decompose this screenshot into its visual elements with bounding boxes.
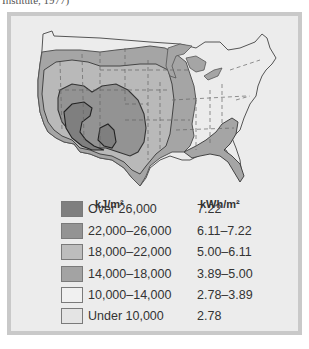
- legend-value: 2.78: [197, 309, 221, 323]
- legend-label: Under 10,000: [88, 309, 164, 323]
- legend-value: 5.00–6.11: [197, 245, 252, 259]
- legend-label: 10,000–14,000: [88, 288, 171, 302]
- legend-row: 22,000–26,000 6.11–7.22: [61, 223, 261, 240]
- legend-swatch: [61, 244, 83, 260]
- legend-swatch: [61, 201, 83, 217]
- legend-swatch: [61, 308, 83, 324]
- legend-row: Over 26,000 7.22: [61, 201, 261, 218]
- legend-row: 10,000–14,000 2.78–3.89: [61, 287, 261, 304]
- legend-label: 14,000–18,000: [88, 267, 171, 281]
- legend-value: 7.22: [197, 202, 221, 216]
- legend-row: 18,000–22,000 5.00–6.11: [61, 244, 261, 261]
- legend-swatch: [61, 287, 83, 303]
- legend-row: Under 10,000 2.78: [61, 308, 261, 325]
- legend-value: 2.78–3.89: [197, 288, 253, 302]
- legend-swatch: [61, 266, 83, 282]
- legend-value: 3.89–5.00: [197, 267, 253, 281]
- figure-panel-inner: kJ/m² kWh/m² Over 26,000 7.22 22,000–26,…: [11, 16, 298, 331]
- figure-panel: kJ/m² kWh/m² Over 26,000 7.22 22,000–26,…: [7, 12, 302, 335]
- legend-label: 18,000–22,000: [88, 245, 171, 259]
- legend-label: 22,000–26,000: [88, 224, 171, 238]
- legend-value: 6.11–7.22: [197, 224, 252, 238]
- legend-swatch: [61, 223, 83, 239]
- legend-row: 14,000–18,000 3.89–5.00: [61, 266, 261, 283]
- legend: kJ/m² kWh/m² Over 26,000 7.22 22,000–26,…: [11, 16, 298, 331]
- legend-label: Over 26,000: [88, 202, 157, 216]
- figure-caption: Institute, 1977): [2, 0, 69, 6]
